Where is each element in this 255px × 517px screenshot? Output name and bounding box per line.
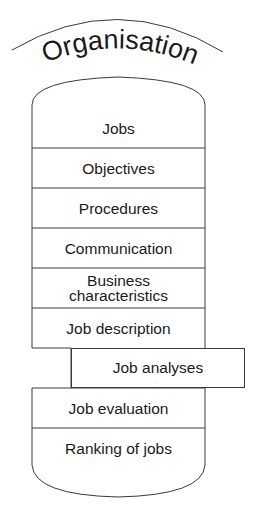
row-label: Business characteristics (52, 273, 185, 303)
row-label: Ranking of jobs (65, 441, 172, 456)
row-ranking-of-jobs: Ranking of jobs (32, 428, 205, 468)
row-label: Job evaluation (69, 401, 169, 416)
row-label: Objectives (82, 161, 154, 176)
row-job-description: Job description (32, 308, 205, 348)
row-job-evaluation: Job evaluation (32, 388, 205, 428)
row-objectives: Objectives (32, 148, 205, 188)
row-label: Communication (65, 241, 173, 256)
offset-box-job-analyses: Job analyses (71, 348, 245, 388)
row-communication: Communication (32, 228, 205, 268)
row-procedures: Procedures (32, 188, 205, 228)
row-jobs: Jobs (32, 108, 205, 148)
row-business-characteristics: Business characteristics (32, 268, 205, 308)
row-label: Job description (66, 321, 170, 336)
row-label: Procedures (79, 201, 158, 216)
row-label: Jobs (102, 121, 135, 136)
offset-box-label: Job analyses (113, 359, 203, 377)
